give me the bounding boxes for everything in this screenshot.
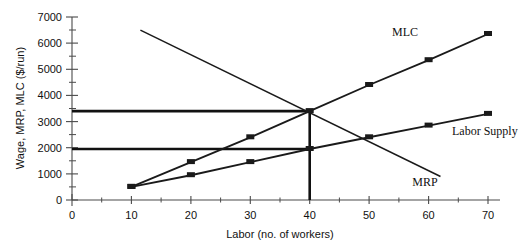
marker-labor-supply-20 <box>187 172 195 177</box>
marker-mlc-20 <box>187 159 195 164</box>
marker-mlc-30 <box>246 134 254 139</box>
x-axis-title: Labor (no. of workers) <box>226 228 334 240</box>
y-tick-label-0: 0 <box>56 194 62 206</box>
marker-mlc-70 <box>484 31 492 36</box>
x-tick-label-20: 20 <box>185 209 197 221</box>
marker-labor-supply-60 <box>425 123 433 128</box>
y-tick-label-5000: 5000 <box>38 63 62 75</box>
marker-labor-supply-70 <box>484 111 492 116</box>
y-tick-label-3000: 3000 <box>38 116 62 128</box>
x-tick-label-30: 30 <box>244 209 256 221</box>
x-tick-label-10: 10 <box>125 209 137 221</box>
marker-labor-supply-10 <box>127 184 135 189</box>
series-label-mlc: MLC <box>392 25 418 39</box>
marker-mlc-40 <box>306 108 314 113</box>
y-tick-label-4000: 4000 <box>38 89 62 101</box>
marker-mlc-60 <box>425 57 433 62</box>
x-tick-label-0: 0 <box>69 209 75 221</box>
series-label-mrp: MRP <box>412 175 438 189</box>
labor-market-chart: 0 1000 2000 3000 4000 5000 6000 7000 Wag… <box>0 0 530 249</box>
marker-labor-supply-30 <box>246 159 254 164</box>
y-tick-label-7000: 7000 <box>38 11 62 23</box>
y-tick-label-6000: 6000 <box>38 37 62 49</box>
x-tick-label-40: 40 <box>304 209 316 221</box>
y-tick-label-1000: 1000 <box>38 168 62 180</box>
marker-mlc-50 <box>365 82 373 87</box>
x-tick-label-70: 70 <box>482 209 494 221</box>
chart-canvas: 0 1000 2000 3000 4000 5000 6000 7000 Wag… <box>0 0 530 249</box>
y-axis-title: Wage, MRP, MLC ($/run) <box>14 47 26 169</box>
y-tick-label-2000: 2000 <box>38 142 62 154</box>
marker-labor-supply-50 <box>365 134 373 139</box>
x-tick-label-50: 50 <box>363 209 375 221</box>
x-tick-label-60: 60 <box>422 209 434 221</box>
marker-labor-supply-40 <box>306 146 314 151</box>
series-label-labor-supply: Labor Supply <box>452 124 518 138</box>
series-line-mrp <box>140 30 440 176</box>
